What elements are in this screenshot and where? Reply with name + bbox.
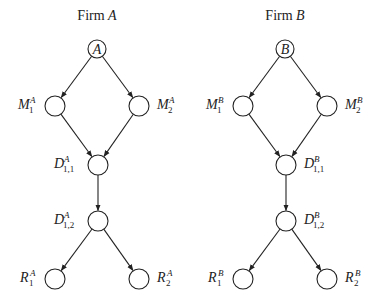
label-base: R [19,270,29,285]
node-m1 [45,96,65,116]
label-superscript: A [63,154,70,164]
node-m2 [317,96,337,116]
label-superscript: A [168,95,175,105]
node-label-m1: MB1 [205,95,224,115]
edge-d12-to-r2 [104,229,133,270]
node-r2 [317,269,337,289]
node-m2 [129,96,149,116]
node-label-r2: RA2 [156,268,173,288]
edge-root-to-m1 [249,56,279,97]
firm-title: Firm A [77,8,117,23]
label-subscript: 1,1 [63,164,74,174]
node-label-d12: DA1,2 [53,210,74,230]
node-label-m1: MA1 [17,95,36,115]
firm-b-graph: Firm BBMB1MB2DB1,1DB1,2RB1RB2 [205,8,363,289]
label-superscript: B [355,268,361,278]
firm-title-var: B [296,8,305,23]
root-node-label: B [281,42,290,57]
label-superscript: B [357,95,363,105]
label-base: R [344,270,354,285]
node-d12 [88,211,108,231]
label-subscript: 1 [29,105,34,115]
firm-title-prefix: Firm [265,8,296,23]
node-d12 [276,211,296,231]
node-d11 [276,155,296,175]
firm-a-graph: Firm AAMA1MA2DA1,1DA1,2RA1RA2 [17,8,175,289]
node-label-r1: RA1 [19,268,36,288]
label-subscript: 1 [29,278,34,288]
label-base: R [207,270,217,285]
edge-root-to-m2 [102,56,132,97]
edge-d12-to-r1 [61,229,92,271]
node-label-m2: MA2 [156,95,175,115]
label-subscript: 2 [168,105,173,115]
edge-m1-to-d11 [61,114,92,156]
label-superscript: A [29,268,36,278]
node-label-d11: DB1,1 [303,154,324,174]
node-label-d12: DB1,2 [303,210,324,230]
node-label-d11: DA1,1 [53,154,74,174]
edge-m1-to-d11 [249,114,280,156]
node-r2 [129,269,149,289]
label-subscript: 2 [354,278,359,288]
label-superscript: B [314,210,320,220]
node-r1 [233,269,253,289]
edge-root-to-m1 [61,56,91,97]
label-superscript: A [166,268,173,278]
label-subscript: 1,2 [313,220,324,230]
edge-root-to-m2 [290,56,320,97]
label-subscript: 1 [217,105,222,115]
root-node-label: A [92,42,102,57]
label-base: R [156,270,166,285]
node-r1 [45,269,65,289]
node-label-r2: RB2 [344,268,361,288]
label-superscript: B [314,154,320,164]
edge-m2-to-d11 [292,114,321,156]
label-subscript: 1 [217,278,222,288]
firm-title: Firm B [265,8,305,23]
label-superscript: A [29,95,36,105]
firm-structure-diagram: Firm AAMA1MA2DA1,1DA1,2RA1RA2 Firm BBMB1… [0,0,379,303]
label-subscript: 2 [166,278,171,288]
edge-d12-to-r1 [249,229,280,271]
label-subscript: 2 [356,105,361,115]
label-superscript: B [218,268,224,278]
label-subscript: 1,2 [63,220,74,230]
edge-m2-to-d11 [104,114,133,156]
firm-title-var: A [107,8,117,23]
edge-d12-to-r2 [292,229,321,270]
label-subscript: 1,1 [313,164,324,174]
label-superscript: A [63,210,70,220]
node-d11 [88,155,108,175]
firm-title-prefix: Firm [77,8,108,23]
label-superscript: B [218,95,224,105]
node-m1 [233,96,253,116]
node-label-m2: MB2 [344,95,363,115]
node-label-r1: RB1 [207,268,224,288]
